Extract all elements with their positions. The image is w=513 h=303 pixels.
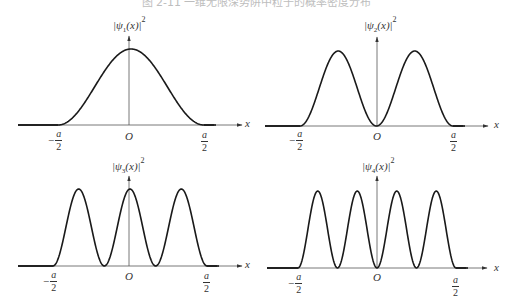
probability-density-curve [265, 51, 463, 126]
x-axis-label-psi2: x [494, 119, 499, 130]
probability-density-plots [0, 0, 513, 303]
tick-neg-half-a-psi4: − a2 [288, 272, 302, 295]
origin-label-psi1: O [125, 131, 133, 142]
probability-density-curve [18, 189, 217, 266]
origin-label-psi2: O [373, 131, 381, 142]
tick-half-a-psi4: a2 [452, 274, 459, 298]
y-axis-label-psi2: |ψ2(x)|2 [364, 18, 397, 34]
probability-density-curve [18, 49, 214, 125]
origin-label-psi3: O [125, 271, 133, 282]
plot-psi2 [265, 37, 488, 126]
y-axis-label-psi1: |ψ1(x)|2 [113, 18, 146, 34]
plot-psi1 [18, 36, 242, 125]
tick-half-a-psi1: a2 [201, 129, 208, 153]
tick-neg-half-a-psi1: − a2 [48, 129, 62, 152]
tick-neg-half-a-psi3: − a2 [43, 270, 57, 293]
y-axis-label-psi3: |ψ3(x)|2 [112, 159, 145, 175]
plot-psi3 [18, 176, 242, 266]
tick-half-a-psi2: a2 [450, 129, 457, 153]
plot-psi4 [267, 176, 487, 268]
tick-half-a-psi3: a2 [203, 270, 210, 294]
tick-neg-half-a-psi2: − a2 [289, 129, 303, 152]
y-axis-label-psi4: |ψ4(x)|2 [362, 159, 395, 175]
x-axis-label-psi1: x [245, 118, 250, 129]
origin-label-psi4: O [373, 272, 381, 283]
x-axis-label-psi3: x [245, 259, 250, 270]
x-axis-label-psi4: x [494, 262, 499, 273]
probability-density-curve [267, 191, 466, 268]
